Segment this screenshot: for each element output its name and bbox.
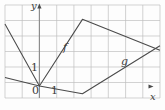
y-tick-label-one: 1: [31, 62, 38, 73]
x-tick-label-one: 1: [51, 85, 58, 96]
curve-label-f: f: [63, 42, 67, 53]
curve-f: [5, 19, 160, 86]
x-axis-label: x: [150, 92, 156, 102]
x-axis-arrow-icon: [149, 84, 154, 88]
plot-canvas: [0, 0, 165, 110]
graph-figure: y x 0 1 1 f g: [0, 0, 165, 110]
coordinate-axes: [5, 6, 152, 98]
origin-tick-label: 0: [32, 85, 39, 96]
y-axis-label: y: [31, 1, 37, 11]
curve-label-g: g: [121, 56, 128, 67]
y-axis-arrow-icon: [37, 4, 41, 9]
